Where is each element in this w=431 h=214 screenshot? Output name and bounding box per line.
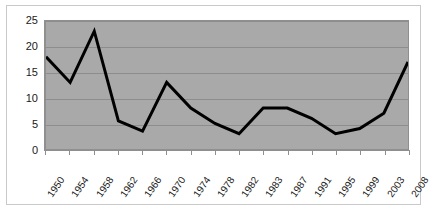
- x-tick-label-text: 1995: [337, 175, 358, 199]
- y-axis: 0510152025: [7, 20, 43, 150]
- x-tick: [166, 151, 167, 155]
- x-tick-label: 1983: [277, 157, 298, 181]
- x-tick-label-text: 1962: [119, 175, 140, 199]
- x-tick-label: 1995: [350, 157, 371, 181]
- x-tick-label-text: 1983: [264, 175, 285, 199]
- x-tick-label: 1987: [301, 157, 322, 181]
- x-tick: [215, 151, 216, 155]
- x-tick: [336, 151, 337, 155]
- x-tick: [69, 151, 70, 155]
- x-tick-label-text: 1970: [167, 175, 188, 199]
- x-tick-label-text: 2003: [385, 175, 406, 199]
- x-tick-label: 1954: [83, 157, 104, 181]
- x-tick-label-text: 1991: [313, 175, 334, 199]
- x-tick: [239, 151, 240, 155]
- plot-area: [45, 20, 409, 150]
- x-tick-label: 1970: [180, 157, 201, 181]
- x-tick: [142, 151, 143, 155]
- series-polyline: [46, 31, 408, 133]
- x-tick: [45, 151, 46, 155]
- x-tick-label-text: 1958: [94, 175, 115, 199]
- y-tick-label: 5: [32, 119, 38, 130]
- x-tick-label: 2003: [398, 157, 419, 181]
- x-tick: [312, 151, 313, 155]
- x-tick-label: 1974: [204, 157, 225, 181]
- x-tick-label-text: 2008: [410, 175, 431, 199]
- x-tick-label-text: 1987: [288, 175, 309, 199]
- x-tick: [385, 151, 386, 155]
- y-tick-label: 10: [26, 93, 38, 104]
- x-tick: [263, 151, 264, 155]
- x-tick: [118, 151, 119, 155]
- x-tick: [94, 151, 95, 155]
- y-tick-label: 20: [26, 41, 38, 52]
- x-tick-label-text: 1974: [191, 175, 212, 199]
- x-tick-label-text: 1978: [216, 175, 237, 199]
- x-tick: [360, 151, 361, 155]
- x-tick-label: 1950: [58, 157, 79, 181]
- x-tick-label: 1982: [253, 157, 274, 181]
- x-tick-label: 1991: [325, 157, 346, 181]
- x-tick-label-text: 1966: [143, 175, 164, 199]
- x-tick: [409, 151, 410, 155]
- chart-frame: 0510152025 19501954195819621966197019741…: [6, 5, 421, 205]
- x-tick: [191, 151, 192, 155]
- line-series: [46, 21, 408, 149]
- x-tick: [288, 151, 289, 155]
- plot-wrapper: [45, 20, 409, 150]
- x-tick-label: 1999: [374, 157, 395, 181]
- x-tick-label-text: 1982: [240, 175, 261, 199]
- y-tick-label: 15: [26, 67, 38, 78]
- x-tick-label-text: 1999: [361, 175, 382, 199]
- x-tick-label: 1966: [156, 157, 177, 181]
- x-tick-label: 1978: [228, 157, 249, 181]
- x-tick-label: 2008: [422, 157, 431, 181]
- x-axis-line: [45, 150, 410, 151]
- y-tick-label: 25: [26, 15, 38, 26]
- x-tick-label: 1958: [107, 157, 128, 181]
- x-tick-label-text: 1950: [46, 175, 67, 199]
- y-tick-label: 0: [32, 145, 38, 156]
- x-tick-label-text: 1954: [70, 175, 91, 199]
- x-tick-label: 1962: [131, 157, 152, 181]
